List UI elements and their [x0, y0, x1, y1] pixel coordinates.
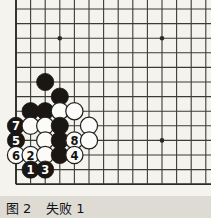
stone-move-number: 3	[41, 163, 49, 177]
figure-container: 75862413 图 2 失败 1	[0, 0, 211, 218]
stone-disc	[66, 103, 83, 120]
stone-move-number: 2	[27, 149, 35, 163]
caption-title-number: 1	[76, 202, 84, 215]
stone-black-3: 3	[37, 161, 54, 178]
stones-layer: 75862413	[7, 73, 97, 178]
go-board-svg: 75862413	[0, 0, 211, 196]
stone-white	[66, 103, 83, 120]
stone-disc	[37, 73, 54, 90]
caption-label: 图	[6, 202, 19, 215]
star-point	[58, 36, 63, 41]
caption-title: 失败	[46, 202, 72, 215]
stone-white	[80, 132, 97, 149]
stone-white-4: 4	[66, 146, 83, 163]
star-point	[160, 138, 165, 143]
star-point	[160, 36, 165, 41]
stone-move-number: 6	[12, 149, 20, 163]
caption-number: 2	[23, 202, 31, 215]
stone-move-number: 1	[27, 163, 35, 177]
stone-move-number: 7	[12, 119, 20, 133]
star-points	[58, 36, 165, 143]
caption: 图 2 失败 1	[6, 199, 156, 218]
stone-black	[37, 73, 54, 90]
go-board-area: 75862413	[0, 0, 211, 196]
stone-disc	[80, 132, 97, 149]
stone-move-number: 4	[70, 149, 78, 163]
